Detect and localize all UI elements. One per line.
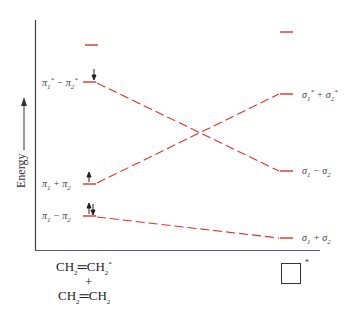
cyclobutane-square-icon [281, 263, 301, 284]
correlation-pi-star-to-sigma-minus [97, 83, 279, 171]
label-sigma-minus: σ1 − σ2 [302, 165, 331, 179]
correlation-pi-plus-to-sigma-star [97, 94, 279, 183]
label-pi-plus: π1 + π2 [42, 178, 71, 192]
label-sigma-plus: σ1 + σ2 [302, 232, 331, 246]
reactant-ethylene: CH2═CH2 [58, 288, 110, 306]
energy-axis-label: Energy [14, 154, 29, 188]
reactant-excited-ethylene: CH2═CH2* [56, 259, 112, 277]
label-pi-minus: π1 − π2 [42, 210, 71, 224]
label-sigma-star-plus: σ1* + σ2* [302, 88, 338, 103]
energy-arrow-head [21, 97, 27, 106]
label-pi-star-minus: π1* − π2* [42, 76, 78, 91]
correlation-pi-minus-to-sigma-plus [97, 217, 279, 238]
product-excited-star: * [305, 258, 309, 267]
